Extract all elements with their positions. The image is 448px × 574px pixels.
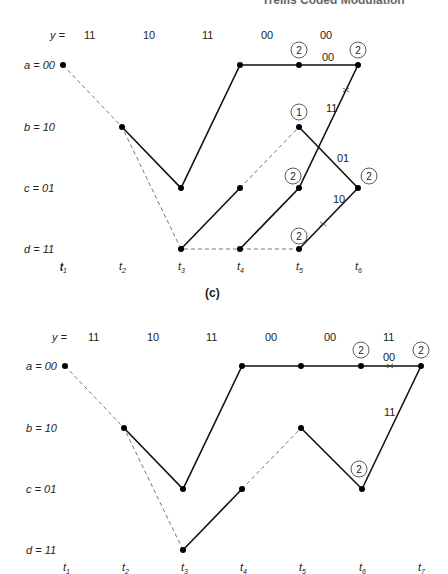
- svg-text:1: 1: [296, 107, 302, 118]
- received-symbol: 00: [261, 29, 273, 41]
- survivor-branch: [299, 188, 358, 249]
- received-symbol: 10: [143, 29, 155, 41]
- path-metric: 2: [291, 42, 307, 58]
- state-label-b: b = 10: [26, 422, 58, 434]
- svg-text:t2: t2: [119, 260, 126, 274]
- trellis-figure: y = 11 10 11 00 00 a = 00 b = 10 c = 01 …: [0, 0, 448, 574]
- received-symbol: 11: [206, 331, 217, 343]
- path-metric: 2: [361, 168, 377, 184]
- state-label-b: b = 10: [24, 121, 56, 133]
- svg-text:t6: t6: [355, 260, 362, 274]
- branch-label: 01: [337, 152, 349, 164]
- path-metric: 2: [291, 228, 307, 244]
- discarded-branch: [242, 428, 301, 489]
- path-metric: 2: [350, 42, 366, 58]
- survivor-branch: [181, 188, 240, 249]
- received-symbol: 00: [324, 331, 336, 343]
- received-symbol: 10: [147, 331, 159, 343]
- trellis-diagram-c: y = 11 10 11 00 00 a = 00 b = 10 c = 01 …: [24, 29, 377, 273]
- svg-text:2: 2: [358, 345, 364, 356]
- svg-text:2: 2: [418, 345, 424, 356]
- received-label: y =: [49, 29, 66, 41]
- branch-label: 00: [383, 351, 395, 363]
- received-symbol: 11: [84, 29, 95, 41]
- survivor-branch: [183, 489, 242, 550]
- path-metric: 2: [351, 461, 367, 477]
- svg-text:2: 2: [296, 231, 302, 242]
- branch-label: 11: [384, 406, 395, 418]
- survivor-path: [122, 65, 358, 188]
- received-symbol: 11: [383, 331, 394, 343]
- svg-text:2: 2: [296, 45, 302, 56]
- discarded-path: [63, 65, 299, 249]
- path-metric: 2: [285, 168, 301, 184]
- received-symbol: 00: [265, 331, 277, 343]
- trellis-nodes: [62, 363, 424, 553]
- svg-text:t3: t3: [178, 260, 185, 274]
- trellis-nodes: [60, 62, 361, 252]
- time-labels-d: t1 t2 t3 t4 t5 t6 t7: [63, 561, 426, 574]
- svg-text:2: 2: [355, 45, 361, 56]
- svg-text:t3: t3: [181, 561, 188, 574]
- branch-label: 10: [333, 193, 345, 205]
- path-metric: 2: [353, 342, 369, 358]
- svg-text:t1: t1: [63, 561, 70, 574]
- svg-text:t5: t5: [296, 260, 303, 274]
- svg-text:t5: t5: [299, 561, 306, 574]
- received-label: y =: [51, 331, 68, 343]
- state-label-a: a = 00: [26, 360, 58, 372]
- path-metric: 1: [291, 104, 307, 120]
- branch-label: 11: [326, 102, 337, 114]
- svg-text:t2: t2: [122, 561, 129, 574]
- survivor-path: [124, 366, 421, 489]
- figure-caption: (c): [205, 286, 220, 300]
- path-metric: 2: [413, 342, 429, 358]
- svg-text:t6: t6: [359, 561, 366, 574]
- svg-text:2: 2: [366, 171, 372, 182]
- time-labels-c: t1 t2 t3 t4 t5 t6: [60, 260, 362, 274]
- svg-text:t4: t4: [237, 260, 244, 274]
- svg-text:2: 2: [290, 171, 296, 182]
- state-label-c: c = 01: [26, 483, 56, 495]
- received-symbol: 11: [88, 331, 99, 343]
- branch-label: 00: [322, 51, 334, 63]
- cross-mark-icon: [320, 222, 326, 226]
- trellis-diagram-d: y = 11 10 11 00 00 11 a = 00 b = 10 c = …: [26, 331, 429, 556]
- discarded-path: [65, 366, 183, 550]
- svg-text:t7: t7: [418, 561, 426, 574]
- state-label-d: d = 11: [26, 544, 56, 556]
- svg-text:2: 2: [356, 464, 362, 475]
- state-label-c: c = 01: [24, 182, 54, 194]
- received-symbol: 00: [320, 29, 332, 41]
- received-symbol: 11: [202, 29, 213, 41]
- svg-text:t1: t1: [60, 260, 67, 274]
- state-label-d: d = 11: [24, 243, 54, 255]
- state-label-a: a = 00: [24, 59, 56, 71]
- svg-text:t4: t4: [240, 561, 247, 574]
